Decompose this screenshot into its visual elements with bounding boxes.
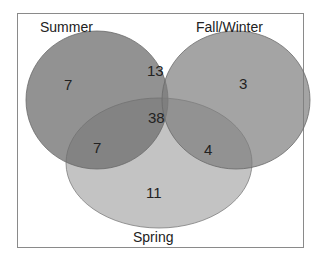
summer-only-count: 7 [64,76,72,93]
fallwinter-label: Fall/Winter [196,19,263,35]
summer-label: Summer [40,19,93,35]
all-three-count: 38 [148,109,165,126]
summer-spring-count: 7 [93,139,101,156]
fallwinter-set [162,31,310,169]
spring-label: Spring [133,229,173,245]
venn-diagram: Summer Fall/Winter Spring 7 3 13 38 7 4 … [0,0,317,259]
fallwinter-spring-count: 4 [204,141,212,158]
spring-only-count: 11 [146,184,162,201]
summer-fallwinter-count: 13 [147,62,164,79]
fallwinter-only-count: 3 [239,75,247,92]
